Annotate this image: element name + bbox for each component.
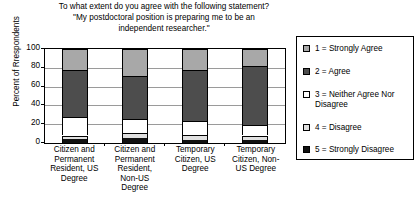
x-axis-label: TemporaryCitizen, Non-US Degree <box>226 145 287 174</box>
x-axis-label: Citizen andPermanentResident,Non-USDegre… <box>105 145 166 193</box>
legend-label-2: 2 = Agree <box>315 67 411 77</box>
legend-swatch-4-icon <box>303 124 310 131</box>
x-axis-label-line: Degree <box>44 174 105 184</box>
x-axis-label-line: Temporary <box>226 145 287 155</box>
x-axis-label-line: Citizen and <box>105 145 166 155</box>
chart-title-line-1: To what extent do you agree with the fol… <box>38 1 290 12</box>
legend-item-3[interactable]: 3 = Neither Agree Nor Disagree <box>303 90 411 110</box>
bar-segment[interactable] <box>182 140 208 143</box>
legend-item-5[interactable]: 5 = Strongly Disagree <box>303 145 411 155</box>
chart-title-line-2: "My postdoctoral position is preparing m… <box>38 12 290 23</box>
x-axis-label-line: US Degree <box>226 164 287 174</box>
bar-segment[interactable] <box>182 70 208 122</box>
bar-column[interactable] <box>242 49 268 143</box>
x-axis-label-line: Degree <box>165 164 226 174</box>
legend-swatch-3-icon <box>303 91 310 98</box>
x-axis-label-line: Non-US <box>105 174 166 184</box>
x-axis-label-line: Degree <box>105 183 166 193</box>
bar-slot <box>165 49 225 143</box>
legend-label-3-cont: Disagree <box>315 100 411 110</box>
x-axis-label: Citizen andPermanentResident, USDegree <box>44 145 105 183</box>
legend-item-4[interactable]: 4 = Disagree <box>303 123 411 133</box>
bar-segment[interactable] <box>242 66 268 125</box>
bar-column[interactable] <box>62 49 88 143</box>
bar-segment[interactable] <box>122 138 148 143</box>
x-axis-label-line: Resident, US <box>44 164 105 174</box>
bar-segment[interactable] <box>122 119 148 133</box>
legend-item-2[interactable]: 2 = Agree <box>303 67 411 77</box>
x-axis-label-line: Citizen, US <box>165 155 226 165</box>
x-axis-labels: Citizen andPermanentResident, USDegreeCi… <box>44 145 286 200</box>
bar-column[interactable] <box>122 49 148 143</box>
x-axis-label-line: Citizen and <box>44 145 105 155</box>
bar-segment[interactable] <box>62 49 88 70</box>
bars-layer <box>45 49 285 143</box>
legend-label-5: 5 = Strongly Disagree <box>315 145 411 155</box>
bar-column[interactable] <box>182 49 208 143</box>
bar-segment[interactable] <box>242 136 268 141</box>
legend-swatch-5-icon <box>303 146 310 153</box>
bar-slot <box>225 49 285 143</box>
x-axis-label-line: Resident, <box>105 164 166 174</box>
bar-segment[interactable] <box>242 125 268 135</box>
x-axis-label-line: Citizen, Non- <box>226 155 287 165</box>
bar-slot <box>105 49 165 143</box>
legend-item-1[interactable]: 1 = Strongly Agree <box>303 44 411 54</box>
x-axis-label-line: Permanent <box>105 155 166 165</box>
y-tick-label-80: 80 <box>14 62 40 70</box>
bar-segment[interactable] <box>242 49 268 66</box>
legend-swatch-1-icon <box>303 45 310 52</box>
x-axis-label: TemporaryCitizen, USDegree <box>165 145 226 174</box>
bar-segment[interactable] <box>62 139 88 143</box>
bar-slot <box>45 49 105 143</box>
y-tick-label-40: 40 <box>14 100 40 108</box>
chart-legend: 1 = Strongly Agree 2 = Agree 3 = Neither… <box>296 36 414 160</box>
chart-title: To what extent do you agree with the fol… <box>38 1 290 35</box>
bar-segment[interactable] <box>62 136 88 140</box>
y-tick-label-0: 0 <box>14 138 40 146</box>
plot-area <box>44 48 286 144</box>
y-tick-label-20: 20 <box>14 119 40 127</box>
bar-segment[interactable] <box>122 133 148 139</box>
chart-title-line-3: independent researcher." <box>38 23 290 34</box>
bar-segment[interactable] <box>62 117 88 136</box>
bar-segment[interactable] <box>62 70 88 117</box>
legend-label-1: 1 = Strongly Agree <box>315 44 411 54</box>
legend-label-4: 4 = Disagree <box>315 123 411 133</box>
stacked-bar-chart: To what extent do you agree with the fol… <box>0 0 417 200</box>
bar-segment[interactable] <box>182 135 208 141</box>
bar-segment[interactable] <box>242 140 268 143</box>
x-axis-label-line: Temporary <box>165 145 226 155</box>
legend-label-3: 3 = Neither Agree Nor <box>315 90 411 100</box>
y-tick-label-100: 100 <box>14 44 40 52</box>
bar-segment[interactable] <box>122 49 148 76</box>
bar-segment[interactable] <box>182 49 208 70</box>
bar-segment[interactable] <box>122 76 148 118</box>
y-tick-label-60: 60 <box>14 81 40 89</box>
x-axis-label-line: Permanent <box>44 155 105 165</box>
bar-segment[interactable] <box>182 121 208 134</box>
legend-swatch-2-icon <box>303 68 310 75</box>
